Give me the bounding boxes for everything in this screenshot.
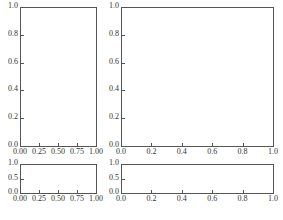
x-tick-mark xyxy=(77,190,78,193)
x-tick-mark xyxy=(58,143,59,146)
y-tick-label: 0.5 xyxy=(101,174,119,182)
y-tick-mark xyxy=(21,63,24,64)
x-tick-mark xyxy=(243,143,244,146)
y-tick-label: 1.0 xyxy=(101,2,119,10)
x-tick-mark xyxy=(77,143,78,146)
x-tick-mark xyxy=(151,143,152,146)
x-tick-mark xyxy=(243,190,244,193)
y-tick-label: 0.6 xyxy=(0,58,18,66)
x-tick-label: 1.00 xyxy=(84,148,108,156)
axes-top-left xyxy=(20,7,97,147)
x-tick-mark xyxy=(58,190,59,193)
y-tick-label: 0.4 xyxy=(0,85,18,93)
y-tick-label: 0.8 xyxy=(101,30,119,38)
y-tick-mark xyxy=(122,118,125,119)
x-tick-label: 1.0 xyxy=(261,195,283,203)
x-tick-mark xyxy=(182,143,183,146)
x-tick-label: 1.00 xyxy=(84,195,108,203)
x-tick-label: 0.4 xyxy=(170,195,194,203)
y-tick-label: 0.4 xyxy=(101,85,119,93)
x-tick-mark xyxy=(39,143,40,146)
y-tick-label: 0.6 xyxy=(101,58,119,66)
x-tick-label: 0.2 xyxy=(139,195,163,203)
y-tick-label: 0.8 xyxy=(0,30,18,38)
x-tick-label: 0.6 xyxy=(200,148,224,156)
y-tick-mark xyxy=(122,63,125,64)
y-tick-mark xyxy=(122,35,125,36)
y-tick-mark xyxy=(21,118,24,119)
x-tick-label: 0.8 xyxy=(231,148,255,156)
x-tick-label: 0.6 xyxy=(200,195,224,203)
x-tick-mark xyxy=(182,190,183,193)
y-tick-mark xyxy=(122,90,125,91)
y-tick-label: 0.5 xyxy=(0,174,18,182)
y-tick-label: 0.2 xyxy=(101,113,119,121)
y-tick-label: 0.2 xyxy=(0,113,18,121)
x-tick-mark xyxy=(212,143,213,146)
x-tick-label: 1.0 xyxy=(261,148,283,156)
x-tick-mark xyxy=(212,190,213,193)
axes-bottom-right xyxy=(121,164,274,194)
x-tick-label: 0.0 xyxy=(109,148,133,156)
y-tick-mark xyxy=(21,35,24,36)
y-tick-mark xyxy=(122,179,125,180)
axes-top-right xyxy=(121,7,274,147)
x-tick-label: 0.8 xyxy=(231,195,255,203)
x-tick-mark xyxy=(39,190,40,193)
y-tick-label: 1.0 xyxy=(0,159,18,167)
x-tick-label: 0.0 xyxy=(109,195,133,203)
y-tick-label: 1.0 xyxy=(0,2,18,10)
y-tick-label: 1.0 xyxy=(101,159,119,167)
y-tick-mark xyxy=(21,90,24,91)
x-tick-label: 0.2 xyxy=(139,148,163,156)
y-tick-mark xyxy=(21,179,24,180)
x-tick-mark xyxy=(151,190,152,193)
x-tick-label: 0.4 xyxy=(170,148,194,156)
